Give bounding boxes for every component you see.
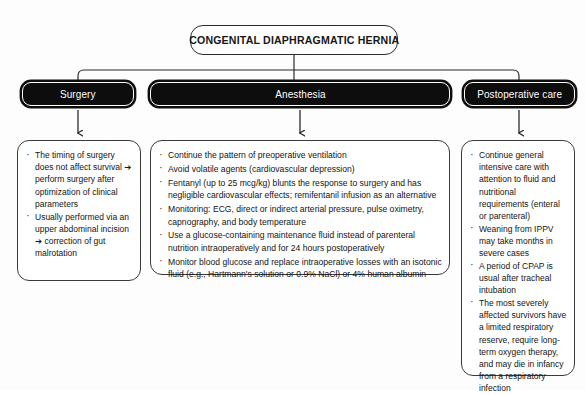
bullet-list-surgery: The timing of surgery does not affect su… bbox=[24, 149, 133, 259]
list-item: Continue the pattern of preoperative ven… bbox=[157, 149, 442, 161]
bullet-list-postoperative-care: Continue general intensive care with att… bbox=[468, 149, 567, 395]
bullet-list-anesthesia: Continue the pattern of preoperative ven… bbox=[157, 149, 442, 281]
header-bar-postoperative-care-label: Postoperative care bbox=[477, 88, 562, 100]
header-bar-surgery-label: Surgery bbox=[60, 88, 96, 100]
panel-postoperative-care: Continue general intensive care with att… bbox=[461, 140, 575, 376]
list-item: Avoid volatile agents (cardiovascular de… bbox=[157, 163, 442, 175]
title-node: CONGENITAL DIAPHRAGMATIC HERNIA bbox=[190, 25, 398, 55]
header-bar-anesthesia: Anesthesia bbox=[150, 82, 450, 106]
list-item: The timing of surgery does not affect su… bbox=[24, 149, 133, 210]
panel-surgery: The timing of surgery does not affect su… bbox=[17, 140, 141, 281]
list-item: Weaning from IPPV may take months in sev… bbox=[468, 223, 567, 260]
list-item: Continue general intensive care with att… bbox=[468, 149, 567, 222]
connector-bus-right bbox=[294, 70, 519, 82]
header-bar-surgery: Surgery bbox=[22, 82, 134, 106]
list-item: A period of CPAP is usual after tracheal… bbox=[468, 260, 567, 297]
list-item: Usually performed via an upper abdominal… bbox=[24, 211, 133, 260]
panel-anesthesia: Continue the pattern of preoperative ven… bbox=[150, 140, 450, 275]
list-item: Use a glucose-containing maintenance flu… bbox=[157, 229, 442, 254]
list-item: Monitoring: ECG, direct or indirect arte… bbox=[157, 203, 442, 228]
header-bar-anesthesia-label: Anesthesia bbox=[275, 88, 325, 100]
header-bar-postoperative-care: Postoperative care bbox=[464, 82, 575, 106]
list-item: Fentanyl (up to 25 mcg/kg) blunts the re… bbox=[157, 177, 442, 202]
title-node-label: CONGENITAL DIAPHRAGMATIC HERNIA bbox=[189, 34, 399, 46]
list-item: The most severely affected survivors hav… bbox=[468, 297, 567, 395]
connector-bus-left bbox=[78, 70, 294, 82]
list-item: Monitor blood glucose and replace intrao… bbox=[157, 256, 442, 281]
